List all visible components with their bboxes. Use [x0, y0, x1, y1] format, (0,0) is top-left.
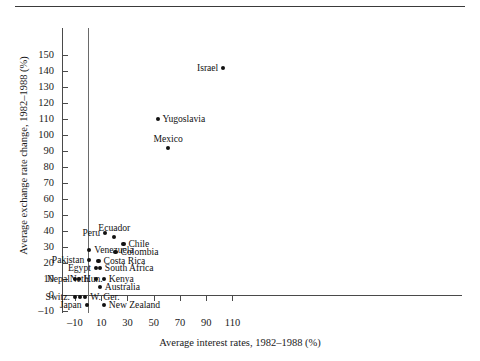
x-tick-110 [232, 295, 233, 301]
y-tick--10 [62, 311, 68, 312]
y-axis-title: Average exchange rate change, 1982–1988 … [18, 11, 29, 301]
y-tick-label-150: 150 [6, 50, 54, 61]
x-axis-title: Average interest rates, 1982–1988 (%) [0, 337, 480, 348]
y-tick-label-120: 120 [6, 98, 54, 109]
y-tick-label-100: 100 [6, 130, 54, 141]
data-point [85, 303, 89, 307]
y-tick-120 [62, 103, 68, 104]
y-tick-label-60: 60 [6, 194, 54, 205]
top-rule-divider [15, 6, 465, 7]
y-tick-label-70: 70 [6, 178, 54, 189]
point-label: New Zealand [109, 300, 160, 310]
data-point [87, 248, 91, 252]
point-label: Neth. [70, 274, 91, 284]
point-label: Mexico [153, 134, 182, 144]
data-point [94, 277, 98, 281]
x-tick-70 [180, 295, 181, 301]
x-tick-90 [206, 295, 207, 301]
y-tick-label-140: 140 [6, 66, 54, 77]
y-tick-label--10: –10 [6, 306, 54, 317]
point-label: Yugoslavia [163, 114, 206, 124]
x-tick-label-110: 110 [212, 318, 252, 329]
y-tick-label-30: 30 [6, 242, 54, 253]
data-point [113, 250, 117, 254]
point-label: Ecuador [98, 224, 130, 234]
y-tick-30 [62, 247, 68, 248]
y-tick-60 [62, 199, 68, 200]
data-point [98, 285, 102, 289]
y-tick-label-80: 80 [6, 162, 54, 173]
data-point [221, 66, 225, 70]
data-point [102, 303, 106, 307]
y-tick-label-90: 90 [6, 146, 54, 157]
y-tick-130 [62, 87, 68, 88]
y-tick-label-40: 40 [6, 226, 54, 237]
y-tick-80 [62, 167, 68, 168]
y-tick-90 [62, 151, 68, 152]
y-tick-label-130: 130 [6, 82, 54, 93]
y-tick-label-20: 20 [6, 258, 54, 269]
point-label: Israel [197, 63, 218, 73]
scatter-plot-figure: –100102030405060708090100110120130140150… [0, 0, 480, 361]
y-tick-140 [62, 71, 68, 72]
data-point [96, 259, 100, 263]
point-label: Japan [60, 300, 82, 310]
y-tick-150 [62, 55, 68, 56]
y-tick-110 [62, 119, 68, 120]
y-tick-label-50: 50 [6, 210, 54, 221]
y-tick-40 [62, 231, 68, 232]
point-label: Nepal [47, 274, 70, 284]
y-tick-70 [62, 183, 68, 184]
y-tick-50 [62, 215, 68, 216]
y-tick-label-110: 110 [6, 114, 54, 125]
point-label: South Africa [105, 263, 154, 273]
point-label: Egypt [68, 263, 91, 273]
data-point [166, 146, 170, 150]
data-point [156, 117, 160, 121]
data-point [112, 235, 116, 239]
y-tick-100 [62, 135, 68, 136]
data-point [98, 266, 102, 270]
x-axis-spine [62, 295, 462, 296]
